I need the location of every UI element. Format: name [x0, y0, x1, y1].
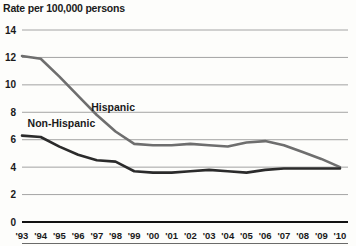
y-axis-tick-label: 14 [5, 25, 17, 36]
series-label-non-hispanic: Non-Hispanic [28, 117, 96, 129]
x-axis-tick-label: '10 [334, 230, 347, 241]
x-axis-tick-label: '06 [259, 230, 272, 241]
gridlines [22, 30, 348, 244]
y-axis-tick-label: 2 [10, 189, 16, 200]
x-axis-tick-labels: '93'94'95'96'97'98'99'00'01'02'03'04'05'… [16, 230, 347, 241]
y-axis-tick-label: 6 [10, 134, 16, 145]
y-axis-tick-label: 12 [5, 52, 17, 63]
y-axis-tick-label: 10 [5, 79, 17, 90]
x-axis-tick-label: '93 [16, 230, 29, 241]
data-series-lines [22, 56, 340, 173]
chart-container: Rate per 100,000 persons 02468101214 '93… [0, 0, 356, 246]
series-annotations: HispanicNon-Hispanic [28, 101, 136, 129]
y-axis-tick-label: 0 [10, 217, 16, 228]
line-chart-svg: 02468101214 '93'94'95'96'97'98'99'00'01'… [0, 0, 356, 246]
series-label-hispanic: Hispanic [91, 101, 135, 113]
x-axis-tick-label: '08 [296, 230, 309, 241]
x-axis-tick-label: '05 [240, 230, 254, 241]
x-axis-tick-label: '04 [221, 230, 235, 241]
x-axis-tick-label: '09 [315, 230, 328, 241]
x-axis-tick-label: '97 [90, 230, 103, 241]
y-axis-tick-labels: 02468101214 [5, 25, 17, 228]
x-axis-tick-label: '96 [72, 230, 85, 241]
x-axis-tick-label: '07 [277, 230, 290, 241]
x-axis-tick-label: '00 [147, 230, 160, 241]
x-axis-tick-label: '94 [34, 230, 48, 241]
x-axis-tick-label: '01 [165, 230, 179, 241]
x-axis-tick-label: '95 [53, 230, 67, 241]
x-axis-tick-label: '99 [128, 230, 141, 241]
x-axis-tick-label: '98 [109, 230, 122, 241]
y-axis-tick-label: 8 [10, 107, 16, 118]
x-axis-tick-label: '02 [184, 230, 197, 241]
y-axis-tick-label: 4 [10, 162, 16, 173]
x-axis-tick-label: '03 [203, 230, 216, 241]
